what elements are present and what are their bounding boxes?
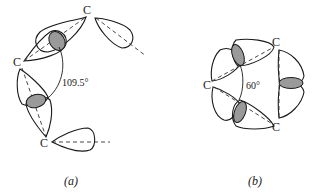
angle-arc (48, 47, 63, 98)
panel-b: 60° C C C (b) (203, 35, 304, 188)
caption-b: (b) (248, 174, 262, 188)
angle-arc (239, 65, 243, 100)
orbital-lobe (95, 18, 133, 48)
overlap-region (279, 78, 303, 89)
bond-left-bottomright (212, 87, 274, 129)
orbital-lobe (52, 128, 95, 151)
carbon-label: C (272, 120, 280, 134)
bond-topright-bottomright (278, 50, 304, 118)
carbon-label: C (40, 136, 48, 150)
angle-label: 109.5° (62, 77, 89, 88)
panel-a: 109.5° C C C (a) (13, 3, 146, 188)
bond-top-left (24, 17, 86, 61)
carbon-label: C (203, 78, 211, 92)
caption-a: (a) (64, 174, 78, 188)
orbital-overlap-diagram: 109.5° C C C (a) 60° (0, 0, 322, 195)
overlap-region (25, 92, 48, 110)
angle-label: 60° (246, 80, 260, 91)
bond-left-bottom (17, 68, 51, 137)
carbon-label: C (272, 35, 280, 49)
carbon-label: C (83, 3, 91, 17)
carbon-label: C (13, 55, 21, 69)
